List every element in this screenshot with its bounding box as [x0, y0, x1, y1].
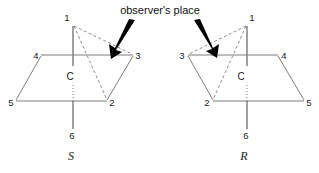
- stereochemistry-diagram: 1 2 3 4 5 6 C S: [0, 0, 319, 173]
- observer-arrow-r-icon: [194, 19, 219, 58]
- edge-4-5-s: [16, 56, 41, 100]
- vertex-label-2-s: 2: [109, 97, 114, 108]
- edge-3-2-s: [107, 56, 133, 100]
- vertex-label-4-r: 4: [281, 50, 286, 61]
- edge-3-2-r: [188, 56, 213, 100]
- figure-s: 1 2 3 4 5 6 C S: [8, 12, 140, 163]
- vertex-label-1-r: 1: [249, 12, 254, 23]
- figure-caption-r: R: [239, 149, 248, 163]
- vertex-label-1-s: 1: [64, 12, 69, 23]
- center-label-s: C: [66, 71, 73, 82]
- observer-arrow-s-icon: [109, 19, 135, 59]
- vertex-label-4-s: 4: [33, 50, 38, 61]
- edge-1-3-s: [74, 26, 132, 54]
- vertex-label-2-r: 2: [204, 97, 209, 108]
- vertex-label-5-s: 5: [8, 97, 13, 108]
- vertex-label-6-r: 6: [243, 130, 248, 141]
- figure-caption-s: S: [68, 149, 74, 163]
- edge-1-2-s: [74, 26, 107, 100]
- vertex-label-3-s: 3: [135, 50, 140, 61]
- figure-r: 1 2 3 4 5 6 C R: [179, 12, 311, 163]
- vertex-label-5-r: 5: [306, 97, 311, 108]
- observer-place-label: observer's place: [120, 4, 200, 16]
- vertex-label-6-s: 6: [69, 130, 74, 141]
- vertex-label-3-r: 3: [179, 50, 184, 61]
- edge-1-2-r: [213, 26, 246, 100]
- edge-4-5-r: [278, 56, 304, 100]
- center-label-r: C: [237, 71, 244, 82]
- diagram-canvas: 1 2 3 4 5 6 C S: [0, 0, 319, 173]
